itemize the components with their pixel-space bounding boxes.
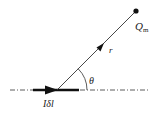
current-element-arrowhead-icon — [45, 86, 58, 95]
angle-label: θ — [89, 75, 94, 86]
radius-arrowhead-icon — [97, 43, 105, 52]
diagram-canvas: Qm r θ Iδl — [0, 0, 157, 116]
current-element-label: Iδl — [42, 98, 54, 109]
charge-label: Qm — [135, 20, 149, 34]
radius-vector — [57, 11, 136, 90]
angle-arc — [78, 69, 87, 90]
point-charge — [133, 8, 138, 13]
distance-label: r — [109, 45, 113, 55]
